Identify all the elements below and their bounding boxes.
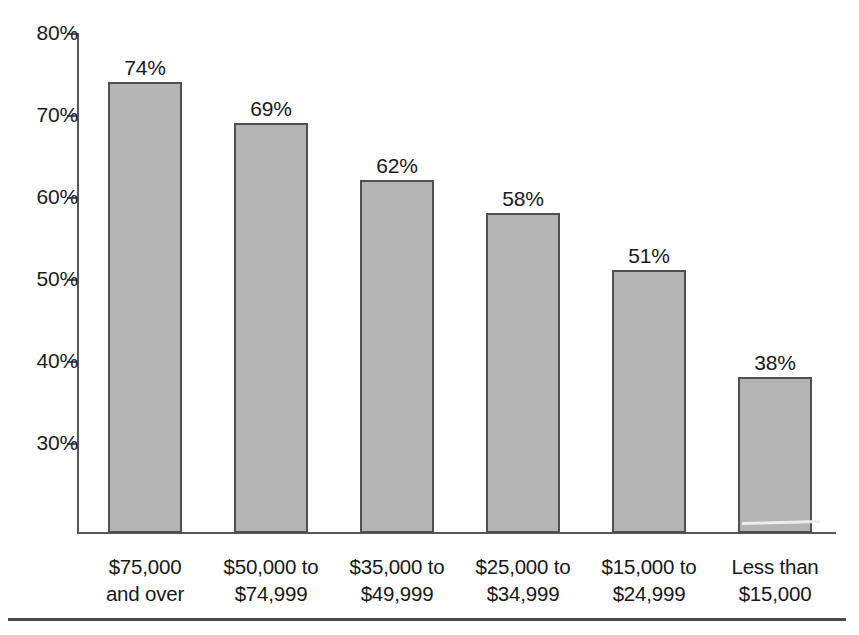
bar-item[interactable] — [738, 377, 812, 533]
plot-area: 80% 70% 60% 50% 40% 30% — [0, 0, 859, 635]
y-tick-50: 50% — [0, 279, 78, 281]
x-category-label: Less than $15,000 — [700, 553, 850, 607]
y-tick-label: 30% — [16, 432, 78, 453]
bar-value-label: 58% — [468, 188, 578, 209]
y-tick-70: 70% — [0, 115, 78, 117]
bar-value-label: 51% — [594, 245, 704, 266]
y-tick-label: 70% — [16, 104, 78, 125]
bar-value-label: 38% — [720, 352, 830, 373]
y-tick-label: 80% — [16, 22, 78, 43]
bar-item[interactable] — [612, 270, 686, 533]
x-category-line-2: $15,000 — [700, 580, 850, 607]
bottom-divider — [8, 618, 846, 621]
y-tick-30: 30% — [0, 443, 78, 445]
y-tick-label: 50% — [16, 268, 78, 289]
bar-item[interactable] — [360, 180, 434, 533]
x-axis-line — [77, 532, 836, 534]
bar-value-label: 69% — [216, 98, 326, 119]
y-tick-label: 40% — [16, 350, 78, 371]
y-tick-40: 40% — [0, 361, 78, 363]
y-tick-80: 80% — [0, 33, 78, 35]
x-category-line-1: Less than — [700, 553, 850, 580]
y-tick-60: 60% — [0, 197, 78, 199]
bar-item[interactable] — [486, 213, 560, 533]
y-tick-label: 60% — [16, 186, 78, 207]
bar-item[interactable] — [234, 123, 308, 533]
bar-value-label: 62% — [342, 155, 452, 176]
bar-value-label: 74% — [90, 57, 200, 78]
bar-item[interactable] — [108, 82, 182, 533]
bar-chart-figure: 80% 70% 60% 50% 40% 30% — [0, 0, 859, 635]
